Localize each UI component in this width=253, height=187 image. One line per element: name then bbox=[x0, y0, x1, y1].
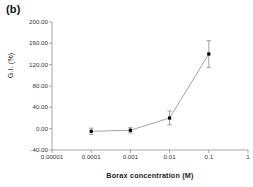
data-point-marker bbox=[168, 116, 171, 119]
data-line bbox=[91, 54, 209, 131]
plot-canvas bbox=[0, 0, 253, 187]
data-point-marker bbox=[129, 129, 132, 132]
data-point-marker bbox=[207, 52, 210, 55]
figure-panel: (b) G.I. (%) Borax concentration (M) -40… bbox=[0, 0, 253, 187]
data-point-marker bbox=[90, 130, 93, 133]
